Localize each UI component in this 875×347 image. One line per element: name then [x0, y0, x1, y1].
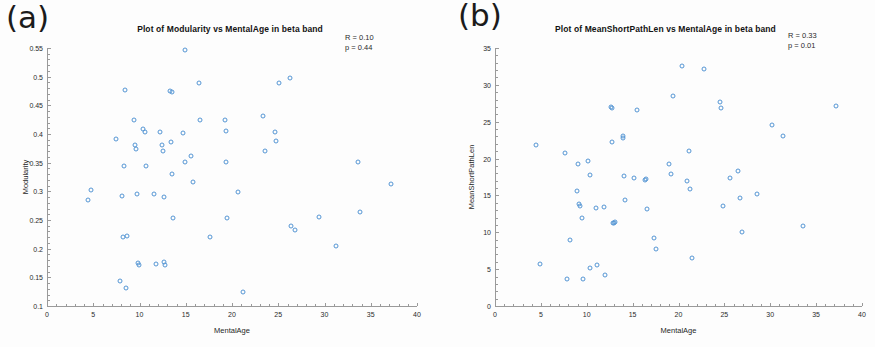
x-axis-tick: [715, 304, 716, 306]
scatter-point: [644, 177, 649, 182]
scatter-point: [241, 289, 246, 294]
x-axis-tick-label: 5: [91, 311, 95, 318]
scatter-point: [122, 87, 127, 92]
y-axis-tick-label: 0.1: [19, 303, 43, 310]
x-axis-tick: [186, 303, 187, 306]
scatter-point: [357, 209, 362, 214]
y-axis-tick: [48, 197, 50, 198]
y-axis-tick: [48, 128, 50, 129]
y-axis-tick: [496, 277, 498, 278]
scatter-point: [154, 262, 159, 267]
scatter-point: [180, 130, 185, 135]
x-axis-tick-label: 40: [858, 311, 866, 318]
x-axis-tick-label: 5: [539, 311, 543, 318]
scatter-point: [737, 196, 742, 201]
scatter-point: [143, 163, 148, 168]
x-axis-title: MentalAge: [661, 326, 697, 335]
y-axis-tick: [48, 157, 50, 158]
y-axis-tick: [48, 134, 51, 135]
scatter-point: [163, 262, 168, 267]
scatter-point: [720, 204, 725, 209]
y-axis-tick: [496, 210, 498, 211]
x-axis-tick: [642, 304, 643, 306]
y-axis-tick: [496, 284, 498, 285]
x-axis-tick-label: 30: [321, 311, 329, 318]
scatter-point: [621, 135, 626, 140]
x-axis-tick: [195, 304, 196, 306]
y-axis-title: Modularity: [21, 160, 30, 195]
x-axis-tick: [352, 304, 353, 306]
y-axis-tick: [496, 48, 499, 49]
x-axis-tick: [66, 304, 67, 306]
y-axis-tick: [496, 144, 498, 145]
y-axis-tick: [48, 266, 50, 267]
x-axis-tick: [204, 304, 205, 306]
y-axis-tick-label: 10: [467, 229, 491, 236]
scatter-point: [653, 247, 658, 252]
y-axis-tick: [48, 220, 51, 221]
scatter-point: [574, 189, 579, 194]
y-axis-tick: [48, 180, 50, 181]
x-axis-tick: [550, 304, 551, 306]
x-axis-tick: [149, 304, 150, 306]
y-axis-tick-label: 0.45: [19, 102, 43, 109]
y-axis-tick: [496, 107, 498, 108]
scatter-point: [222, 117, 227, 122]
scatter-point: [576, 162, 581, 167]
scatter-point: [562, 150, 567, 155]
scatter-point: [272, 129, 277, 134]
scatter-point: [686, 149, 691, 154]
scatter-point: [169, 90, 174, 95]
y-axis-tick: [48, 214, 50, 215]
x-axis-tick: [417, 303, 418, 306]
scatter-point: [684, 179, 689, 184]
scatter-point: [834, 104, 839, 109]
scatter-point: [702, 66, 707, 71]
scatter-point: [152, 191, 157, 196]
y-axis-tick: [48, 191, 51, 192]
x-axis-tick-label: 25: [274, 311, 282, 318]
x-axis-tick: [306, 304, 307, 306]
x-axis-tick: [297, 304, 298, 306]
scatter-point: [170, 216, 175, 221]
panel-a-stat-r: R = 0.10: [345, 33, 374, 43]
scatter-point: [131, 117, 136, 122]
x-axis-tick: [84, 304, 85, 306]
x-axis-tick-label: 20: [675, 311, 683, 318]
x-axis-tick: [743, 304, 744, 306]
scatter-point: [801, 223, 806, 228]
x-axis-tick: [807, 304, 808, 306]
y-axis-tick: [48, 163, 51, 164]
scatter-point: [645, 207, 650, 212]
scatter-point: [134, 191, 139, 196]
x-axis-tick: [596, 304, 597, 306]
y-axis-tick: [496, 306, 499, 307]
y-axis-tick-label: 0.2: [19, 245, 43, 252]
y-axis-tick: [496, 254, 498, 255]
y-axis-tick: [48, 283, 50, 284]
panel-b-stat-r: R = 0.33: [788, 31, 817, 41]
scatter-point: [594, 262, 599, 267]
scatter-point: [114, 137, 119, 142]
y-axis-tick: [48, 306, 51, 307]
x-axis-tick: [688, 304, 689, 306]
scatter-point: [610, 106, 615, 111]
x-axis-tick: [568, 304, 569, 306]
scatter-point: [263, 148, 268, 153]
x-axis-tick: [260, 304, 261, 306]
x-axis-tick: [798, 304, 799, 306]
y-axis-tick: [496, 188, 498, 189]
y-axis-tick: [48, 48, 51, 49]
scatter-point: [136, 262, 141, 267]
scatter-point: [564, 276, 569, 281]
x-axis-tick: [651, 304, 652, 306]
x-axis-tick-label: 15: [182, 311, 190, 318]
y-axis-tick: [496, 181, 498, 182]
y-axis-tick: [496, 77, 498, 78]
scatter-point: [119, 194, 124, 199]
x-axis-line: [47, 306, 417, 307]
x-axis-tick: [761, 304, 762, 306]
panel-b-plot-area: 051015202530354005101520253035MentalAgeM…: [495, 48, 862, 306]
x-axis-tick: [614, 304, 615, 306]
x-axis-tick: [853, 304, 854, 306]
